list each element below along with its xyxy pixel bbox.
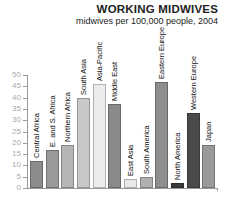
y-tick-label: 10 (0, 161, 21, 169)
bar-label: Middle East (110, 62, 119, 101)
bar (124, 179, 137, 188)
y-tick (23, 132, 27, 133)
chart-subtitle: midwives per 100,000 people, 2004 (76, 16, 218, 26)
bar-label: Western Europe (189, 56, 198, 110)
y-tick (23, 109, 27, 110)
bar (171, 183, 184, 188)
y-axis (27, 75, 28, 188)
bar (93, 84, 106, 188)
y-tick (23, 120, 27, 121)
y-tick-label: 50 (0, 71, 21, 79)
y-tick (23, 177, 27, 178)
bar (61, 145, 74, 188)
y-tick-label: 5 (0, 173, 21, 181)
bar-label: Northern Africa (63, 92, 72, 142)
bar-label: South America (142, 125, 151, 174)
bar-label: North America (173, 132, 182, 180)
y-tick-label: 40 (0, 94, 21, 102)
y-tick (23, 86, 27, 87)
y-tick (23, 188, 27, 189)
bar-label: Eastern Europe (157, 27, 166, 79)
x-axis-end-tick (217, 188, 218, 191)
y-tick (23, 154, 27, 155)
bar-label: East Asia (126, 145, 135, 176)
y-tick-label: 25 (0, 128, 21, 136)
bar (187, 113, 200, 188)
y-tick-label: 0 (0, 184, 21, 192)
y-tick-label: 30 (0, 116, 21, 124)
bar (155, 82, 168, 188)
x-axis (27, 188, 218, 189)
bar-label: E. and S. Africa (48, 95, 57, 147)
bar-label: Central Africa (32, 113, 41, 158)
bar (77, 98, 90, 188)
y-tick-label: 20 (0, 139, 21, 147)
bar (202, 145, 215, 188)
y-tick (23, 143, 27, 144)
bar (46, 150, 59, 188)
y-tick-label: 15 (0, 150, 21, 158)
bar-label: South Asia (79, 59, 88, 95)
y-tick (23, 165, 27, 166)
bar-label: Asia-Pacific (95, 42, 104, 81)
y-tick (23, 98, 27, 99)
bar-label: Japan (204, 122, 213, 142)
bar (30, 161, 43, 188)
chart-title: WORKING MIDWIVES (97, 3, 218, 15)
bar (140, 177, 153, 188)
bar (108, 104, 121, 188)
y-tick-label: 45 (0, 82, 21, 90)
y-tick-label: 35 (0, 105, 21, 113)
y-tick (23, 75, 27, 76)
